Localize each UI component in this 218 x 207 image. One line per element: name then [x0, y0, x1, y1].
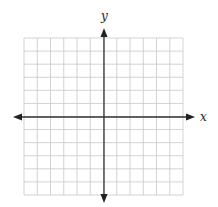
y-axis-label: y	[100, 9, 108, 23]
x-axis-label: x	[200, 110, 207, 124]
coordinate-plane: y x	[0, 0, 218, 207]
x-axis-right-arrow-icon	[186, 114, 195, 121]
y-axis-down-arrow-icon	[101, 194, 108, 203]
y-axis-up-arrow-icon	[101, 28, 108, 37]
x-axis-left-arrow-icon	[13, 114, 22, 121]
